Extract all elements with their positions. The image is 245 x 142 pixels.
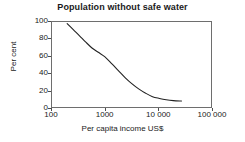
y-tick-label: 60: [26, 52, 48, 60]
chart-figure: Population without safe water Per cent 0…: [0, 0, 245, 142]
x-axis-label: Per capita income US$: [0, 124, 245, 133]
y-tick-label: 80: [26, 34, 48, 42]
y-axis-label: Per cent: [9, 31, 18, 83]
data-curve-layer: [51, 21, 212, 108]
y-tick-mark: [48, 21, 51, 22]
y-tick-mark: [48, 73, 51, 74]
series-line-population-without-safe-water: [67, 24, 181, 101]
x-tick-mark: [212, 108, 213, 111]
x-tick-label: 100 000: [198, 110, 227, 119]
y-tick-label: 100: [26, 17, 48, 25]
x-axis-tick-labels: 100100010 000100 000: [0, 110, 245, 122]
y-tick-mark: [48, 38, 51, 39]
x-tick-label: 10 000: [146, 110, 170, 119]
x-tick-mark: [158, 108, 159, 111]
y-tick-label: 20: [26, 87, 48, 95]
y-tick-mark: [48, 91, 51, 92]
y-tick-label: 40: [26, 69, 48, 77]
y-tick-mark: [48, 56, 51, 57]
x-tick-mark: [105, 108, 106, 111]
x-tick-mark: [51, 108, 52, 111]
x-tick-label: 100: [44, 110, 57, 119]
x-tick-label: 1000: [96, 110, 114, 119]
